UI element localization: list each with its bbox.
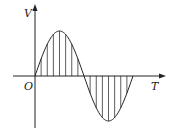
x-axis-arrow-icon	[159, 74, 166, 79]
y-axis-label: V	[24, 7, 33, 20]
y-axis-arrow-icon	[33, 4, 38, 11]
sine-diagram: V T O	[0, 0, 174, 133]
origin-label: O	[24, 80, 33, 93]
x-axis-label: T	[151, 80, 160, 93]
